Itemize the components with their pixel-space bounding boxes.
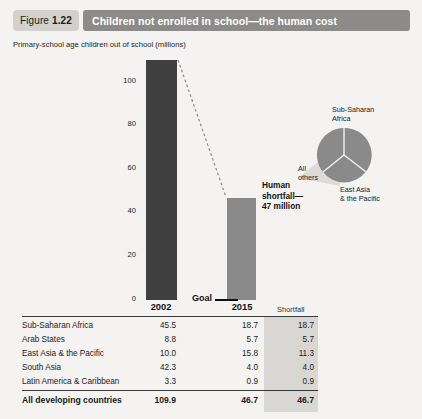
row-value-2015: 4.0 [212, 363, 258, 372]
pie-label-ssa-line-2: Africa [332, 115, 374, 124]
table-row: East Asia & the Pacific 10.0 15.8 11.3 [0, 349, 422, 362]
pie-label-others-line-2: others [298, 174, 318, 183]
row-label: Latin America & Caribbean [22, 377, 119, 386]
pie-label-all-others: All others [298, 165, 318, 182]
row-value-2015: 0.9 [212, 377, 258, 386]
table-row-total: All developing countries 109.9 46.7 46.7 [0, 395, 422, 408]
figure-word: Figure [20, 15, 49, 26]
row-value-2002: 45.5 [128, 321, 176, 330]
row-value-2015: 5.7 [212, 335, 258, 344]
y-tick-40: 40 [110, 206, 136, 215]
row-value-shortfall: 11.3 [268, 349, 314, 358]
row-label: Sub-Saharan Africa [22, 321, 93, 330]
row-value-total-2002: 109.9 [128, 395, 176, 405]
figure-number: 1.22 [52, 15, 72, 26]
x-label-2015: 2015 [212, 302, 272, 312]
y-tick-60: 60 [110, 163, 136, 172]
column-header-shortfall: Shortfall [277, 305, 305, 314]
y-tick-100: 100 [110, 76, 136, 85]
row-value-total-2015: 46.7 [212, 395, 258, 405]
pie-label-sub-saharan-africa: Sub-Saharan Africa [332, 106, 374, 123]
row-value-shortfall: 0.9 [268, 377, 314, 386]
table-row: Arab States 8.8 5.7 5.7 [0, 335, 422, 348]
chart-plot-area: 100 80 60 40 20 0 Goal Human shortfall— … [0, 50, 422, 315]
row-label: East Asia & the Pacific [22, 349, 104, 358]
figure-title: Children not enrolled in school—the huma… [92, 15, 337, 27]
table-row: South Asia 42.3 4.0 4.0 [0, 363, 422, 376]
goal-label: Goal [192, 293, 212, 303]
row-value-2015: 18.7 [212, 321, 258, 330]
goal-rule [215, 299, 238, 301]
row-label: Arab States [22, 335, 65, 344]
figure-title-bar: Children not enrolled in school—the huma… [83, 10, 410, 31]
table-row: Sub-Saharan Africa 45.5 18.7 18.7 [0, 321, 422, 334]
row-value-2002: 10.0 [128, 349, 176, 358]
y-tick-80: 80 [110, 119, 136, 128]
data-table: Sub-Saharan Africa 45.5 18.7 18.7 Arab S… [0, 316, 422, 419]
row-label-total: All developing countries [22, 395, 122, 405]
figure-header: Figure 1.22 Children not enrolled in sch… [13, 10, 410, 31]
pie-chart-inset: Sub-Saharan Africa All others East Asia … [296, 108, 422, 213]
row-value-total-shortfall: 46.7 [268, 395, 314, 405]
pie-label-eap-line-2: & the Pacific [340, 195, 380, 204]
bar-2002 [146, 60, 177, 300]
row-value-shortfall: 5.7 [268, 335, 314, 344]
x-label-2002: 2002 [131, 302, 191, 312]
row-value-2002: 3.3 [128, 377, 176, 386]
pie-label-east-asia-pacific: East Asia & the Pacific [340, 186, 380, 203]
row-value-shortfall: 4.0 [268, 363, 314, 372]
bar-2015 [227, 198, 256, 300]
table-total-rule [22, 390, 318, 391]
y-tick-20: 20 [110, 250, 136, 259]
row-value-2002: 42.3 [128, 363, 176, 372]
row-label: South Asia [22, 363, 61, 372]
row-value-2002: 8.8 [128, 335, 176, 344]
row-value-2015: 15.8 [212, 349, 258, 358]
row-value-shortfall: 18.7 [268, 321, 314, 330]
chart-subtitle: Primary-school age children out of schoo… [13, 40, 186, 49]
table-top-rule [22, 316, 318, 317]
table-row: Latin America & Caribbean 3.3 0.9 0.9 [0, 377, 422, 390]
figure-number-box: Figure 1.22 [13, 10, 79, 31]
